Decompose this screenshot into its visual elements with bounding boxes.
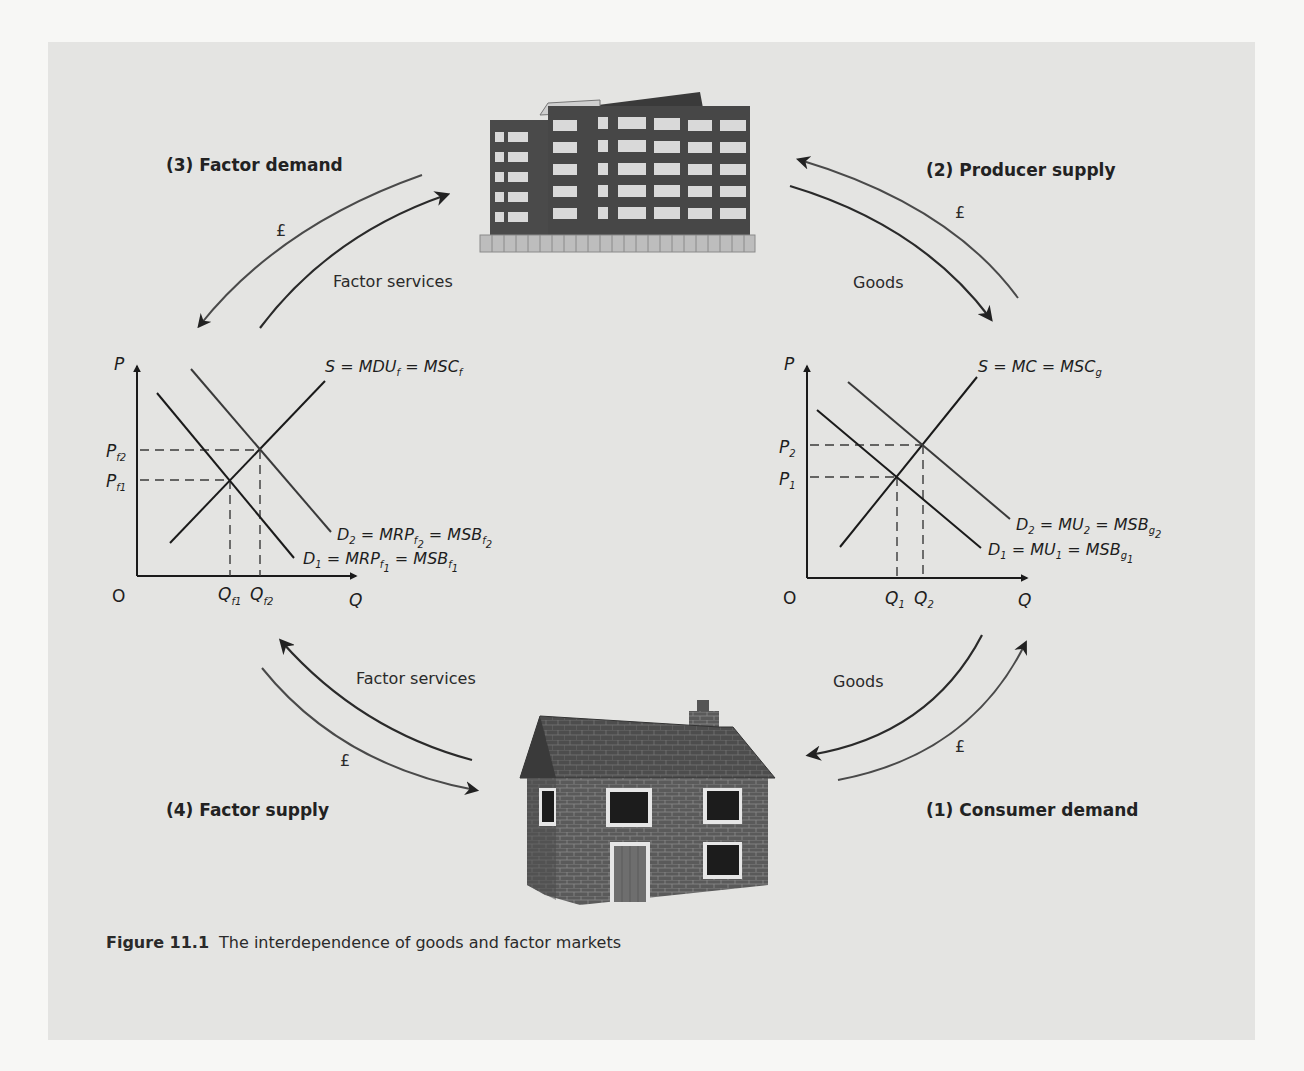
flow-label-factor-services: Factor services xyxy=(356,669,476,688)
demand-curve-d1 xyxy=(157,393,294,558)
house-icon xyxy=(520,700,775,905)
flow-label-goods: Goods xyxy=(853,273,903,292)
factor-services-flow-arrow-household-to-factor-market xyxy=(282,642,472,760)
quantity-label-qf1: Qf1 xyxy=(218,584,241,607)
figure-number: Figure 11.1 xyxy=(106,933,209,952)
factor-market-chart: P Q O Pf2 Pf1 Qf1 Qf2 S = MDUf = MSCf D2… xyxy=(106,354,492,610)
figure-title: The interdependence of goods and factor … xyxy=(218,933,621,952)
office-building-icon xyxy=(480,92,755,252)
demand-curve-d1 xyxy=(817,410,981,548)
money-flow-arrow-household-to-goods-market xyxy=(838,644,1025,780)
supply-curve-label: S = MC = MSCg xyxy=(978,357,1102,378)
price-label-pf2: Pf2 xyxy=(106,441,126,463)
price-label-p1: P1 xyxy=(779,469,796,491)
stage-factor-demand: (3) Factor demand xyxy=(166,155,343,175)
circular-flow-diagram: (3) Factor demand (2) Producer supply (4… xyxy=(0,0,1304,1071)
stage-factor-supply: (4) Factor supply xyxy=(166,800,329,820)
demand-curve-d2-label: D2 = MU2 = MSBg2 xyxy=(1016,515,1161,540)
supply-curve xyxy=(840,377,977,547)
money-flow-arrow-firm-to-factor-market xyxy=(200,175,422,325)
demand-curve-d1-label: D1 = MRPf1 = MSBf1 xyxy=(303,549,458,574)
origin-label: O xyxy=(112,586,125,606)
price-label-p2: P2 xyxy=(779,437,796,459)
quantity-label-q2: Q2 xyxy=(914,588,934,610)
flow-label-money: £ xyxy=(340,751,350,770)
figure-caption: Figure 11.1The interdependence of goods … xyxy=(106,933,621,952)
demand-curve-d1-label: D1 = MU1 = MSBg1 xyxy=(988,540,1133,565)
x-axis-label: Q xyxy=(349,590,362,610)
demand-curve-d2 xyxy=(191,369,331,532)
demand-curve-d2 xyxy=(848,382,1010,519)
flow-label-money: £ xyxy=(955,203,965,222)
stage-consumer-demand: (1) Consumer demand xyxy=(926,800,1138,820)
supply-curve xyxy=(170,381,325,543)
demand-curve-d2-label: D2 = MRPf2 = MSBf2 xyxy=(337,525,492,550)
flow-label-factor-services: Factor services xyxy=(333,272,453,291)
quantity-label-q1: Q1 xyxy=(885,588,905,610)
flow-label-goods: Goods xyxy=(833,672,883,691)
x-axis-label: Q xyxy=(1018,590,1031,610)
y-axis-label: P xyxy=(114,354,125,374)
price-label-pf1: Pf1 xyxy=(106,471,126,493)
flow-label-money: £ xyxy=(276,221,286,240)
stage-producer-supply: (2) Producer supply xyxy=(926,160,1115,180)
origin-label: O xyxy=(783,588,796,608)
supply-curve-label: S = MDUf = MSCf xyxy=(325,357,464,378)
quantity-label-qf2: Qf2 xyxy=(250,584,273,607)
flow-label-money: £ xyxy=(955,737,965,756)
y-axis-label: P xyxy=(784,354,795,374)
money-flow-arrow-to-firm xyxy=(800,160,1018,298)
goods-market-chart: P Q O P2 P1 Q1 Q2 S = MC = MSCg D2 = MU2… xyxy=(779,354,1161,610)
factor-services-flow-arrow-to-firm xyxy=(260,195,446,328)
